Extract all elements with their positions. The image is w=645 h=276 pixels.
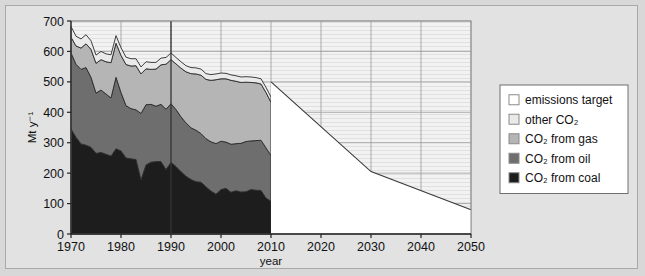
- legend-label: CO₂ from oil: [525, 152, 590, 166]
- emissions-area-chart: 197019801990200020102020203020402050 010…: [6, 6, 637, 268]
- legend-swatch: [509, 95, 519, 105]
- chart-legend: emissions targetother CO₂CO₂ from gasCO₂…: [500, 85, 628, 194]
- x-tick-label: 1980: [107, 240, 135, 254]
- legend-swatch: [509, 114, 519, 124]
- x-tick-label: 1970: [57, 240, 85, 254]
- y-tick-label: 500: [43, 75, 64, 89]
- legend-swatch: [509, 153, 519, 163]
- x-tick-label: 2040: [407, 240, 435, 254]
- legend-label: emissions target: [525, 93, 613, 107]
- y-tick-label: 400: [43, 106, 64, 120]
- y-tick-label: 700: [43, 15, 64, 29]
- x-tick-label: 2010: [257, 240, 285, 254]
- y-axis-title: Mt y⁻¹: [26, 112, 38, 144]
- y-tick-label: 0: [57, 228, 64, 242]
- legend-item[interactable]: emissions target: [509, 93, 613, 107]
- x-axis-tick-labels: 197019801990200020102020203020402050: [57, 240, 485, 254]
- y-tick-label: 200: [43, 167, 64, 181]
- x-tick-label: 2020: [307, 240, 335, 254]
- legend-label: CO₂ from coal: [525, 171, 600, 185]
- y-tick-label: 100: [43, 197, 64, 211]
- y-tick-label: 300: [43, 136, 64, 150]
- x-tick-label: 2050: [457, 240, 485, 254]
- x-tick-label: 1990: [157, 240, 185, 254]
- legend-label: other CO₂: [525, 113, 579, 127]
- y-tick-label: 600: [43, 45, 64, 59]
- legend-swatch: [509, 134, 519, 144]
- figure-panel: 197019801990200020102020203020402050 010…: [5, 5, 638, 269]
- x-tick-label: 2030: [357, 240, 385, 254]
- x-tick-label: 2000: [207, 240, 235, 254]
- x-axis-title: year: [260, 255, 283, 267]
- y-axis-tick-labels: 0100200300400500600700: [43, 15, 64, 242]
- legend-label: CO₂ from gas: [525, 132, 598, 146]
- legend-item[interactable]: other CO₂: [509, 113, 579, 127]
- legend-swatch: [509, 173, 519, 183]
